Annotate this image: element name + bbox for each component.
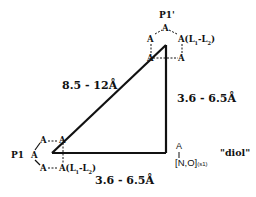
p1-label: P1 [11,151,24,160]
vertical-distance-label: 3.6 - 6.5Å [177,93,236,104]
horizontal-distance-label: 3.6 - 6.5Å [95,175,154,186]
p1-prime-top-atom: A [162,24,169,33]
corner-group: [N,O](s1) [175,158,208,168]
p1-upper-right-atom: A [59,136,66,145]
p1-prime-right-atom: A(L1-L2) [178,35,215,46]
hypotenuse-distance-label: 8.5 - 12Å [62,80,117,91]
p1-upper-left-atom: A [40,136,47,145]
p1-prime-lower-left-atom: A [147,54,154,63]
p1-prime-left-atom: A [147,35,154,44]
p1-prime-label: P1' [159,11,175,20]
p1-prime-lower-right-atom: A [178,54,185,63]
p1-left-atom: A [31,151,38,160]
p1-lower-right-atom: A(L1-L2) [59,164,96,175]
diol-label: "diol" [220,148,250,158]
corner-atom: A [176,142,182,151]
p1-lower-left-atom: A [40,164,47,173]
